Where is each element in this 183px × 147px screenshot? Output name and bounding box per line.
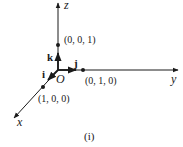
k-vector-label: k [47,51,54,63]
x-axis-label: x [16,115,23,129]
i-vector-label: i [42,68,45,80]
j-vector-label: j [73,57,78,69]
z-axis-label: z [63,0,69,12]
y-unit-point-dot [81,68,85,72]
y-axis-label: y [170,72,177,86]
y-unit-point-label: (0, 1, 0) [85,75,117,87]
coordinate-axes-diagram: z y x O k j i (0, 0, 1) (0, 1, 0) (1, 0,… [0,0,183,147]
x-unit-point-label: (1, 0, 0) [38,93,70,105]
z-unit-point-dot [56,43,60,47]
z-unit-point-label: (0, 0, 1) [64,34,96,46]
origin-label: O [56,72,65,86]
x-unit-point-dot [41,85,45,89]
figure-caption: (i) [84,130,95,143]
